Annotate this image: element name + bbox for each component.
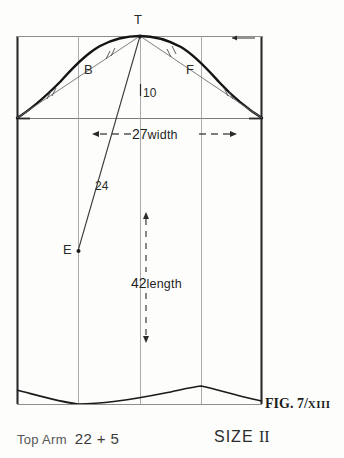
point-label-F: F — [186, 62, 194, 77]
dimension-underarm-seam: 24 — [95, 179, 108, 193]
pattern-figure-page: T B F E 10 24 27width 42length FIG. 7/XI… — [0, 0, 344, 458]
length-arrow-up-head — [143, 212, 149, 219]
dimension-width-unit: width — [148, 128, 178, 142]
caption-size-prefix: SIZE — [214, 428, 259, 445]
chord-tick-right-inner-2 — [172, 46, 176, 54]
figure-number: FIG. 7/XIII — [265, 396, 331, 412]
caption-size: SIZE II — [214, 428, 270, 446]
point-label-B: B — [84, 62, 93, 77]
cap-construction-chords — [17, 36, 262, 118]
figure-number-text: FIG. 7/ — [265, 396, 308, 411]
pattern-drawing-svg — [0, 0, 344, 458]
length-arrow-down-head — [143, 336, 149, 343]
caption-measurement: 22 + 5 — [75, 430, 120, 447]
point-E-dot — [77, 249, 81, 253]
chord-tick-left-inner-2 — [111, 48, 115, 56]
chord-T-to-right-corner — [140, 36, 262, 118]
width-arrow-left-head — [92, 131, 99, 137]
caption-size-roman: II — [259, 428, 270, 445]
caption-top-arm: Top Arm22 + 5 — [17, 430, 119, 447]
dimension-cap-height: 10 — [143, 86, 156, 100]
dimension-length-value: 42 — [131, 275, 147, 291]
point-label-E: E — [63, 242, 72, 257]
sleeve-cap-curve — [17, 36, 262, 118]
point-label-T: T — [134, 12, 142, 27]
hem-curve-ink — [17, 386, 262, 404]
point-T-dot — [138, 35, 142, 39]
dimension-length-unit: length — [147, 277, 182, 291]
width-arrow-right-head — [230, 131, 237, 137]
caption-pattern-name: Top Arm — [17, 432, 67, 447]
hem-curve — [17, 386, 262, 405]
dimension-length-group: 42length — [131, 275, 182, 291]
figure-number-roman: XIII — [308, 398, 331, 410]
cap-curve-ink — [17, 36, 262, 118]
dimension-width-group: 27width — [132, 126, 178, 142]
dimension-width-value: 27 — [132, 126, 148, 142]
